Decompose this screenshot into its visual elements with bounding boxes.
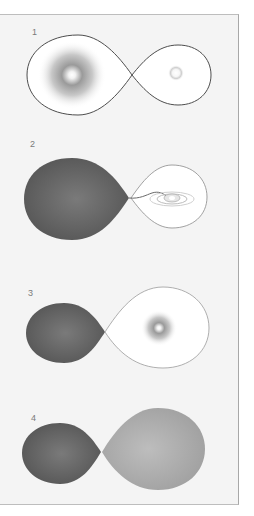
- primary-star-glow: [38, 41, 106, 109]
- stage-label: 2: [30, 139, 35, 149]
- primary-roche-lobe-filled: [26, 303, 105, 363]
- secondary-star-glow: [168, 65, 184, 81]
- secondary-star-glow: [141, 310, 177, 346]
- stage-label: 3: [28, 288, 33, 298]
- stage-label: 1: [32, 27, 37, 37]
- primary-roche-lobe-filled: [24, 158, 129, 240]
- primary-roche-lobe-filled: [22, 423, 101, 484]
- stage-1: 1: [27, 27, 211, 115]
- binary-star-diagram: 1 2 3 4: [0, 0, 254, 516]
- stage-3: 3: [26, 287, 209, 368]
- stage-2: 2: [24, 139, 207, 240]
- stage-label: 4: [31, 413, 36, 423]
- stage-4: 4: [22, 408, 205, 490]
- accretion-disk: [150, 192, 194, 206]
- secondary-roche-lobe-filled: [102, 408, 205, 490]
